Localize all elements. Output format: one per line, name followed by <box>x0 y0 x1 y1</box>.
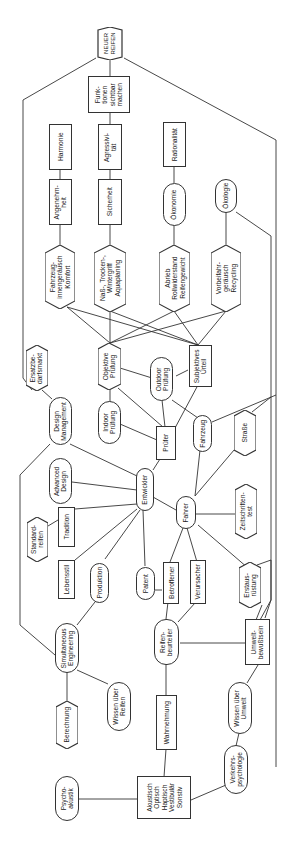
node-label: Akustisch Optisch Haptisch Vestibulär So… <box>145 783 182 812</box>
zeitschriften-node: Zeitschriften- test <box>235 484 257 539</box>
wissen-reifen-node: Wissen über Reifen <box>107 682 131 731</box>
node-label: Reifen- beurteiler <box>159 628 174 656</box>
aggressivitaet-node: Agressivi- tät <box>98 124 122 170</box>
node-label: Fahrzeug- innengeräusch Komfort <box>49 255 71 298</box>
node-label: Advanced Design <box>53 466 68 495</box>
strasse-node: Straße <box>234 410 256 456</box>
node-label: Vorbeifahr- geräusch Recycling <box>215 262 237 294</box>
node-label: Wissen über Umwelt <box>233 690 248 727</box>
node-label: Erstaus- rüstung <box>243 573 258 598</box>
sicherheit-node: Sicherheit <box>98 179 122 225</box>
node-label: Zeitschriften- test <box>239 492 254 530</box>
node-label: Lebensstil <box>63 565 70 595</box>
ersatzbedarf-node: Ersatzbe- darfsmarkt <box>26 345 48 391</box>
berechnung-node: Berechnung <box>56 701 78 749</box>
node-label: Fahrer <box>182 503 189 522</box>
node-label: Outdoor Prüfung <box>154 367 169 391</box>
node-label: Objektive Prüfung <box>102 353 117 381</box>
wissen-umwelt-node: Wissen über Umwelt <box>228 682 252 734</box>
node-label: Betroffener <box>167 567 174 600</box>
node-label: Patent <box>142 574 149 593</box>
rationalitaet-node: Rationalität <box>163 122 186 167</box>
wahrnehmung-node: Wahrnehmung <box>156 695 177 750</box>
produktion-node: Produktion <box>90 563 109 603</box>
node-label: Angenehm- heit <box>53 185 68 219</box>
standardreifen-node: Standard- reifen <box>27 517 48 562</box>
patent-node: Patent <box>136 567 155 600</box>
oekologie-node: Ökologie <box>215 179 237 213</box>
oekonomie-node: Ökonomie <box>163 183 186 226</box>
design-mgmt-node: Design Management <box>49 397 72 445</box>
erstausruestung-node: Erstaus- rüstung <box>239 562 261 608</box>
node-label: Tradition <box>63 514 70 539</box>
pruefer-node: Prüfer <box>156 426 176 460</box>
akustisch-node: Akustisch Optisch Haptisch Vestibulär So… <box>137 776 191 819</box>
verkehrspsychologie-node: Verkehrs- psychologie <box>224 745 248 794</box>
node-label: Funk- tionen sichtbar machen <box>94 83 124 106</box>
angenehmheit-node: Angenehm- heit <box>49 179 72 225</box>
node-label: Agressivi- tät <box>103 133 118 162</box>
node-label: NEUER REIFEN <box>103 32 118 54</box>
node-label: Rationalität <box>171 128 178 161</box>
lebensstil-node: Lebensstil <box>58 560 75 599</box>
node-label: Ökologie <box>222 183 229 209</box>
node-label: Simultaneous Engineering <box>60 628 75 668</box>
node-label: Design Management <box>53 402 68 441</box>
node-label: Verkehrs- psychologie <box>229 752 244 787</box>
umweltbewusstsein-node: Umwelt- bewußtsein <box>245 619 270 665</box>
verursacher-node: Verursacher <box>190 560 206 604</box>
tradition-node: Tradition <box>58 507 75 547</box>
node-label: Berechnung <box>63 707 70 743</box>
objektive-node: Objektive Prüfung <box>98 343 121 390</box>
node-label: Straße <box>241 423 248 443</box>
node-label: Psycho- akustik <box>60 787 75 811</box>
harmonie-node: Harmonie <box>49 124 72 170</box>
reifenbeurteiler-node: Reifen- beurteiler <box>154 619 179 665</box>
node-label: Subjektives Urteil <box>193 349 208 383</box>
node-label: Naß-, Trocken-, Wintergriff Aquaplaning <box>99 256 121 302</box>
node-label: Umwelt- bewußtsein <box>250 625 265 659</box>
vorbeifahr-node: Vorbeifahr- geräusch Recycling <box>211 245 241 312</box>
node-label: Fahrzeug <box>199 420 206 448</box>
nass-trocken-node: Naß-, Trocken-, Wintergriff Aquaplaning <box>94 245 126 312</box>
node-label: Produktion <box>96 567 103 599</box>
fahrzeug-komfort-node: Fahrzeug- innengeräusch Komfort <box>45 245 75 309</box>
psychoakustik-node: Psycho- akustik <box>55 776 79 821</box>
fahrer-node: Fahrer <box>176 496 196 529</box>
node-label: Sicherheit <box>106 187 113 216</box>
neuer-reifen-node: NEUER REIFEN <box>94 27 126 60</box>
node-label: Verursacher <box>194 564 201 600</box>
node-label: Prüfer <box>162 434 169 452</box>
funktionen-node: Funk- tionen sichtbar machen <box>88 76 130 113</box>
node-label: Standard- reifen <box>30 525 45 554</box>
node-label: Indoor Prüfung <box>102 411 117 434</box>
entwickler-node: Entwickler <box>136 468 154 511</box>
node-label: Wahrnehmung <box>163 701 170 744</box>
node-label: Ökonomie <box>171 189 178 219</box>
node-label: Harmonie <box>57 133 64 162</box>
indoor-node: Indoor Prüfung <box>98 401 121 444</box>
abrieb-node: Abrieb Rollwiderstand Reifengewicht <box>159 245 190 312</box>
subjektives-node: Subjektives Urteil <box>189 345 212 387</box>
node-label: Ersatzbe- darfsmarkt <box>30 352 45 383</box>
betroffener-node: Betroffener <box>163 562 179 604</box>
fahrzeug-node: Fahrzeug <box>193 415 212 452</box>
node-label: Abrieb Rollwiderstand Reifengewicht <box>163 257 185 300</box>
node-label: Entwickler <box>141 474 148 504</box>
simultaneous-node: Simultaneous Engineering <box>55 623 79 673</box>
node-label: Wissen über Reifen <box>112 688 127 725</box>
advanced-design-node: Advanced Design <box>49 458 72 504</box>
outdoor-node: Outdoor Prüfung <box>150 357 173 401</box>
